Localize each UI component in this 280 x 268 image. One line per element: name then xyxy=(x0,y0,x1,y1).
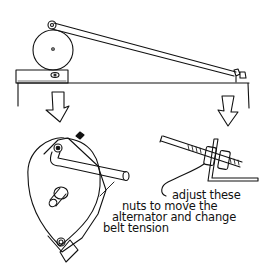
top-view-assembly xyxy=(16,21,249,108)
alternator-housing xyxy=(28,138,100,246)
adjusting-rod xyxy=(52,23,236,76)
angle-bracket xyxy=(208,139,258,181)
pivot-bolt-icon xyxy=(51,73,59,78)
adjuster-detail xyxy=(160,136,258,196)
alternator-detail xyxy=(28,132,129,262)
illustration-canvas: adjust these nuts to move the alternator… xyxy=(0,0,280,268)
down-arrow-right-icon xyxy=(218,96,238,126)
caption-line-4: belt tension xyxy=(103,223,169,234)
top-pulley xyxy=(48,21,56,29)
shaft-icon xyxy=(50,188,66,206)
down-arrow-left-icon xyxy=(46,92,69,122)
threaded-rod xyxy=(161,136,242,167)
end-bracket-nuts-icon xyxy=(234,69,246,82)
nut-right-icon xyxy=(218,150,231,169)
